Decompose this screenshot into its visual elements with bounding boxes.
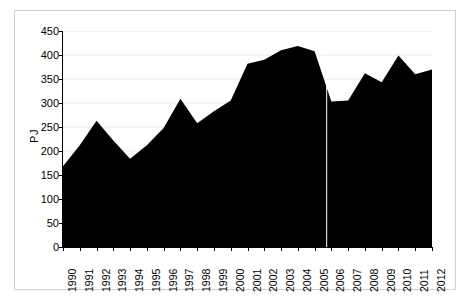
area-series-svg — [63, 31, 432, 247]
x-tick-label: 2007 — [352, 269, 363, 292]
x-tick-label: 2005 — [319, 269, 330, 292]
x-tick-label: 1991 — [84, 269, 95, 292]
x-axis-tick-labels: 1990199119921993199419951996199719981999… — [63, 250, 432, 294]
x-tick-label: 2003 — [285, 269, 296, 292]
x-tick-label: 2010 — [402, 269, 413, 292]
x-tick-label: 2006 — [335, 269, 346, 292]
x-tick-label: 1995 — [151, 269, 162, 292]
x-tick-label: 1998 — [201, 269, 212, 292]
y-tick-label: 450 — [33, 26, 59, 37]
x-tick-label: 2012 — [436, 269, 447, 292]
x-tick-label: 1990 — [67, 269, 78, 292]
x-tick-label: 1993 — [117, 269, 128, 292]
chart-figure: PJ 050100150200250300350400450 199019911… — [0, 0, 470, 300]
x-tick-label: 2000 — [235, 269, 246, 292]
x-tick-label: 2004 — [302, 269, 313, 292]
x-tick-label: 2011 — [419, 269, 430, 292]
y-tick-label: 150 — [33, 170, 59, 181]
y-axis-tick-labels: 050100150200250300350400450 — [30, 31, 59, 247]
y-tick-label: 100 — [33, 194, 59, 205]
x-tick-label: 1999 — [218, 269, 229, 292]
y-tick-label: 50 — [33, 218, 59, 229]
x-tick-label: 1997 — [184, 269, 195, 292]
x-tick-label: 1996 — [168, 269, 179, 292]
x-tick-label: 2009 — [386, 269, 397, 292]
x-tick-mark — [432, 247, 433, 251]
y-tick-label: 300 — [33, 98, 59, 109]
y-tick-label: 350 — [33, 74, 59, 85]
y-tick-label: 200 — [33, 146, 59, 157]
plot-area — [63, 31, 432, 247]
y-tick-label: 400 — [33, 50, 59, 61]
y-tick-label: 0 — [33, 242, 59, 253]
x-tick-label: 1992 — [101, 269, 112, 292]
x-tick-label: 2002 — [268, 269, 279, 292]
x-tick-label: 2008 — [369, 269, 380, 292]
x-tick-label: 1994 — [134, 269, 145, 292]
x-tick-label: 2001 — [252, 269, 263, 292]
area-fill — [63, 46, 432, 247]
y-tick-label: 250 — [33, 122, 59, 133]
